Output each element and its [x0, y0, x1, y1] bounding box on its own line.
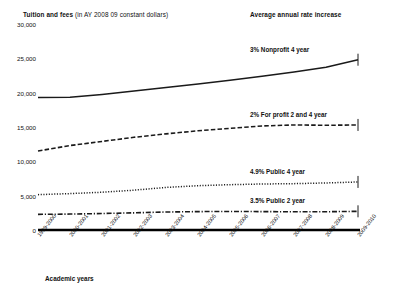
y-axis-tick-labels: 30,00025,00020,00015,00010,0005,0000 — [0, 18, 36, 234]
y-tick-label: 5,000 — [21, 192, 36, 199]
chart-title-left: Tuition and fees (in AY 2008 09 constant… — [23, 11, 168, 18]
y-tick-label: 20,000 — [17, 89, 36, 96]
series-line-for-profit-2-and-4-year — [38, 125, 358, 151]
series-label-public-2-year: 3.5% Public 2 year — [250, 197, 305, 204]
y-tick-label: 10,000 — [17, 158, 36, 165]
y-tick-label: 25,000 — [17, 55, 36, 62]
chart-title-right: Average annual rate increase — [250, 11, 341, 18]
series-line-nonprofit-4-year — [38, 60, 358, 98]
y-tick-label: 30,000 — [17, 21, 36, 28]
plot-area — [38, 24, 370, 230]
chart-figure: Tuition and fees (in AY 2008 09 constant… — [0, 0, 400, 298]
series-lines — [38, 24, 370, 230]
y-tick-label: 15,000 — [17, 124, 36, 131]
x-axis-title: Academic years — [45, 275, 94, 282]
series-line-public-4-year — [38, 182, 358, 195]
series-label-nonprofit-4-year: 3% Nonprofit 4 year — [250, 46, 309, 53]
series-label-for-profit-2-and-4-year: 2% For profit 2 and 4 year — [250, 111, 327, 118]
series-label-public-4-year: 4.9% Public 4 year — [250, 168, 305, 175]
chart-title-left-bold: Tuition and fees — [23, 11, 73, 18]
chart-title-left-light: (in AY 2008 09 constant dollars) — [75, 11, 168, 18]
x-axis-tick-labels: 1999-20002000-20012001-20022002-20032003… — [38, 234, 378, 272]
